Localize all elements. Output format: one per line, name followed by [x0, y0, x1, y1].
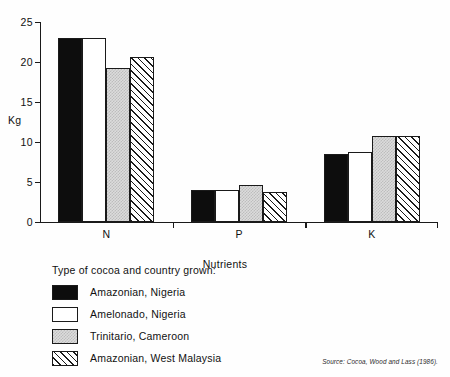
- x-group-label: K: [368, 228, 375, 240]
- legend-item: Trinitario, Cameroon: [52, 326, 312, 346]
- y-tick-label: 10: [21, 136, 33, 148]
- legend-swatch: [52, 351, 78, 366]
- x-axis-line: [40, 222, 438, 223]
- bar: [215, 190, 239, 222]
- y-tick-label: 15: [21, 96, 33, 108]
- legend-item: Amazonian, Nigeria: [52, 282, 312, 302]
- plot-area: 0510152025: [40, 22, 438, 222]
- legend: Type of cocoa and country grown: Amazoni…: [52, 264, 312, 370]
- y-tick: [35, 22, 41, 23]
- y-axis-line: [40, 22, 41, 222]
- bar: [82, 38, 106, 222]
- legend-label: Amazonian, West Malaysia: [90, 352, 221, 364]
- bar: [396, 136, 420, 222]
- y-tick: [35, 102, 41, 103]
- y-tick: [35, 142, 41, 143]
- y-tick-label: 25: [21, 16, 33, 28]
- x-tick: [437, 222, 438, 228]
- bar: [263, 192, 287, 222]
- y-tick: [35, 62, 41, 63]
- bar: [130, 57, 154, 222]
- legend-label: Trinitario, Cameroon: [90, 330, 189, 342]
- bar: [191, 190, 215, 222]
- bar: [106, 68, 130, 222]
- bar-chart: Kg 0510152025 NPK Nutrients Type of coco…: [0, 0, 450, 377]
- x-group-label: P: [235, 228, 242, 240]
- bar: [58, 38, 82, 222]
- y-tick-label: 5: [27, 176, 33, 188]
- y-tick: [35, 182, 41, 183]
- legend-swatch: [52, 329, 78, 344]
- x-tick: [305, 222, 306, 228]
- legend-rows: Amazonian, NigeriaAmelonado, NigeriaTrin…: [52, 282, 312, 368]
- y-tick: [35, 222, 41, 223]
- y-axis-title: Kg: [8, 114, 21, 126]
- legend-title: Type of cocoa and country grown:: [52, 264, 312, 276]
- x-group-label: N: [103, 228, 111, 240]
- legend-item: Amazonian, West Malaysia: [52, 348, 312, 368]
- x-tick: [173, 222, 174, 228]
- legend-swatch: [52, 285, 78, 300]
- legend-item: Amelonado, Nigeria: [52, 304, 312, 324]
- legend-label: Amazonian, Nigeria: [90, 286, 185, 298]
- bar: [324, 154, 348, 222]
- y-tick-label: 0: [27, 216, 33, 228]
- source-note: Source: Cocoa, Wood and Lass (1986).: [322, 358, 438, 365]
- y-tick-label: 20: [21, 56, 33, 68]
- legend-label: Amelonado, Nigeria: [90, 308, 186, 320]
- legend-swatch: [52, 307, 78, 322]
- bar: [348, 152, 372, 222]
- bar: [239, 185, 263, 222]
- bar: [372, 136, 396, 222]
